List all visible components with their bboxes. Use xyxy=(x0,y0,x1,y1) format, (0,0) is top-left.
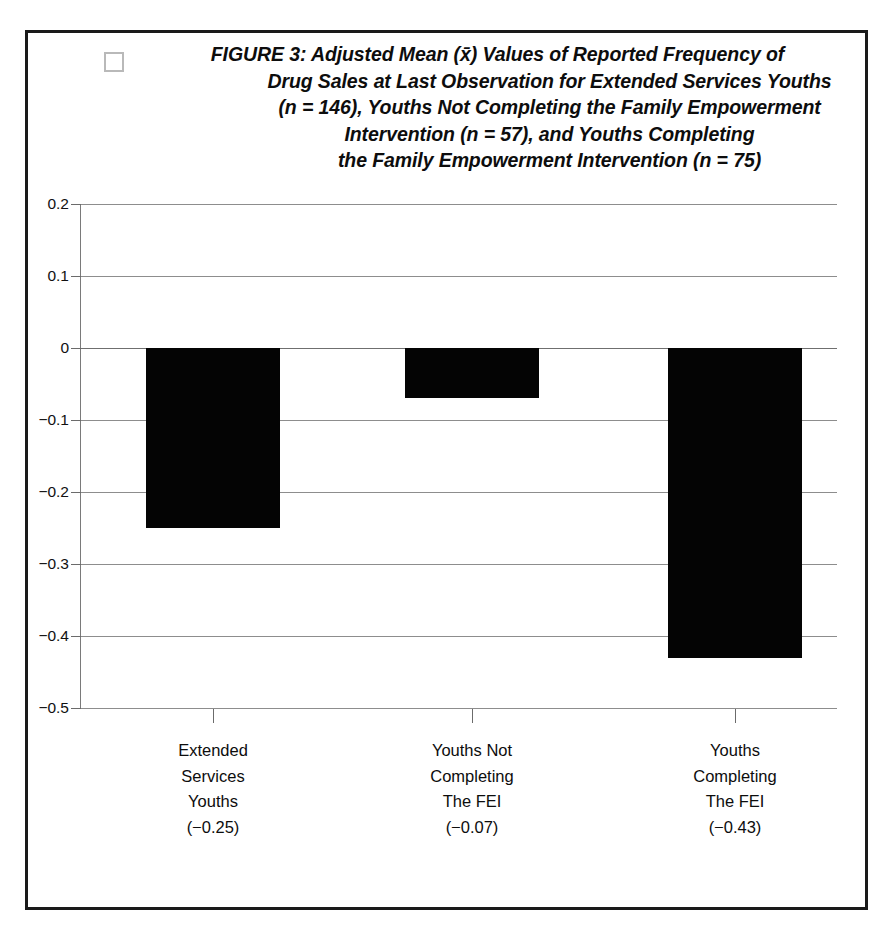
x-axis-category-label-line: The FEI xyxy=(367,789,577,815)
bar xyxy=(146,348,280,528)
bar xyxy=(668,348,802,658)
y-axis-tick xyxy=(71,564,81,565)
y-axis-tick-label: −0.2 xyxy=(7,484,69,500)
y-axis-tick xyxy=(71,636,81,637)
x-axis-category-label-line: Youths Not xyxy=(367,738,577,764)
y-axis-tick xyxy=(71,492,81,493)
x-axis-tick xyxy=(213,709,214,723)
empty-checkbox-icon xyxy=(104,52,124,72)
x-axis-category-label: Youths NotCompletingThe FEI(−0.07) xyxy=(367,738,577,840)
x-axis-category-label: YouthsCompletingThe FEI(−0.43) xyxy=(630,738,840,840)
x-axis-category-label-line: Services xyxy=(108,764,318,790)
figure-title-line-1: FIGURE 3: Adjusted Mean (x̄) Values of R… xyxy=(146,41,849,68)
y-axis-tick xyxy=(71,420,81,421)
y-axis-tick-label: 0 xyxy=(7,340,69,356)
x-axis-category-label-line: (−0.43) xyxy=(630,815,840,841)
y-axis-tick xyxy=(71,276,81,277)
x-axis-tick xyxy=(735,709,736,723)
y-axis-tick xyxy=(71,204,81,205)
x-axis-category-label-line: The FEI xyxy=(630,789,840,815)
x-axis-category-label-line: Extended xyxy=(108,738,318,764)
bar xyxy=(405,348,539,398)
x-axis-category-label-line: (−0.25) xyxy=(108,815,318,841)
x-axis-category-label-line: (−0.07) xyxy=(367,815,577,841)
gridline xyxy=(80,276,837,277)
x-axis-category-label-line: Completing xyxy=(367,764,577,790)
figure-title-line-4: Intervention (n = 57), and Youths Comple… xyxy=(146,121,849,148)
y-axis-tick-labels: 0.20.10−0.1−0.2−0.3−0.4−0.5 xyxy=(0,0,69,908)
x-axis-category-label-line: Youths xyxy=(630,738,840,764)
y-axis-tick-label: −0.4 xyxy=(7,628,69,644)
x-axis-tick xyxy=(472,709,473,723)
gridline xyxy=(80,204,837,205)
figure-title-line-3: (n = 146), Youths Not Completing the Fam… xyxy=(146,94,849,121)
gridline xyxy=(80,708,837,709)
x-axis-category-label-line: Youths xyxy=(108,789,318,815)
figure-title: FIGURE 3: Adjusted Mean (x̄) Values of R… xyxy=(28,41,871,174)
figure-title-line-5: the Family Empowerment Intervention (n =… xyxy=(146,147,849,174)
figure-title-block: FIGURE 3: Adjusted Mean (x̄) Values of R… xyxy=(28,41,871,174)
y-axis-line xyxy=(80,204,81,709)
y-axis-tick-label: −0.1 xyxy=(7,412,69,428)
y-axis-tick-label: 0.1 xyxy=(7,268,69,284)
y-axis-tick xyxy=(71,708,81,709)
x-axis-category-label-line: Completing xyxy=(630,764,840,790)
figure-title-line-2: Drug Sales at Last Observation for Exten… xyxy=(146,68,849,95)
y-axis-tick xyxy=(71,348,81,349)
x-axis-category-label: ExtendedServicesYouths(−0.25) xyxy=(108,738,318,840)
y-axis-tick-label: −0.5 xyxy=(7,700,69,716)
y-axis-tick-label: 0.2 xyxy=(7,196,69,212)
y-axis-tick-label: −0.3 xyxy=(7,556,69,572)
